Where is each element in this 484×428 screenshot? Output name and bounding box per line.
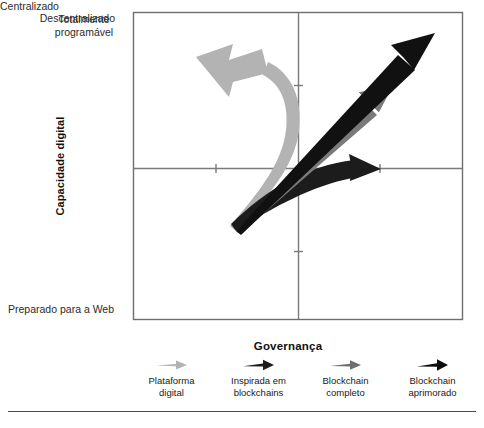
y-axis-title: Capacidade digital (54, 91, 66, 241)
bottom-divider (8, 411, 476, 412)
quadrant-label-top-left: Totalmente programável (40, 13, 128, 39)
legend-label: Plataforma digital (149, 375, 195, 399)
arrow-right-icon (242, 358, 276, 372)
arrow-right-icon (329, 358, 363, 372)
legend-item-blockchain-aprimorado: Blockchain aprimorado (389, 358, 476, 399)
quadrant-label-bottom-left: Preparado para a Web (8, 303, 130, 316)
quadrant-chart-figure: Totalmente programável Preparado para a … (0, 0, 484, 428)
chart-legend: Plataforma digital Inspirada em blockcha… (128, 358, 476, 414)
arrow-blockchain-aprimorado (236, 33, 435, 235)
legend-label: Blockchain completo (323, 375, 369, 399)
legend-label: Blockchain aprimorado (408, 375, 456, 399)
legend-item-plataforma-digital: Plataforma digital (128, 358, 215, 399)
legend-label: Inspirada em blockchains (231, 375, 286, 399)
arrow-right-icon (155, 358, 189, 372)
arrow-plataforma-digital (196, 44, 300, 231)
arrow-right-icon (416, 358, 450, 372)
x-axis-title: Governança (188, 340, 388, 352)
legend-item-blockchain-completo: Blockchain completo (302, 358, 389, 399)
legend-item-inspirada-em-blockchains: Inspirada em blockchains (215, 358, 302, 399)
